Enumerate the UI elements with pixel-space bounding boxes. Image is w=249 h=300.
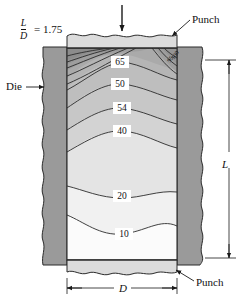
dimension-D-label: D: [119, 283, 127, 294]
ratio-denominator: D: [20, 30, 27, 41]
dimension-L: [205, 60, 236, 258]
contour-label-65: 65: [111, 56, 129, 68]
forging-contour-figure: L D = 1.75 Punch Punch Die L D 655054402…: [0, 0, 249, 300]
punch-top: [67, 34, 177, 48]
ratio-numerator: L: [20, 18, 27, 29]
contour-label-20: 20: [113, 190, 131, 202]
contour-label-40: 40: [113, 125, 131, 137]
contour-label-10: 10: [115, 228, 133, 240]
punch-bottom-label: Punch: [196, 277, 224, 288]
contour-label-54: 54: [113, 102, 131, 114]
punch-top-leader-icon: [172, 20, 190, 36]
punch-bottom: [67, 260, 177, 275]
contour-label-50: 50: [111, 78, 129, 90]
die-left: [42, 47, 67, 265]
ratio-value: = 1.75: [34, 24, 62, 35]
dimension-L-label: L: [222, 159, 228, 170]
die-right: [177, 47, 203, 265]
die-label: Die: [6, 81, 22, 92]
figure-canvas: [0, 0, 249, 300]
punch-top-label: Punch: [192, 14, 220, 25]
aspect-ratio-label: L D = 1.75: [20, 18, 62, 41]
punch-bottom-leader-icon: [176, 270, 194, 281]
